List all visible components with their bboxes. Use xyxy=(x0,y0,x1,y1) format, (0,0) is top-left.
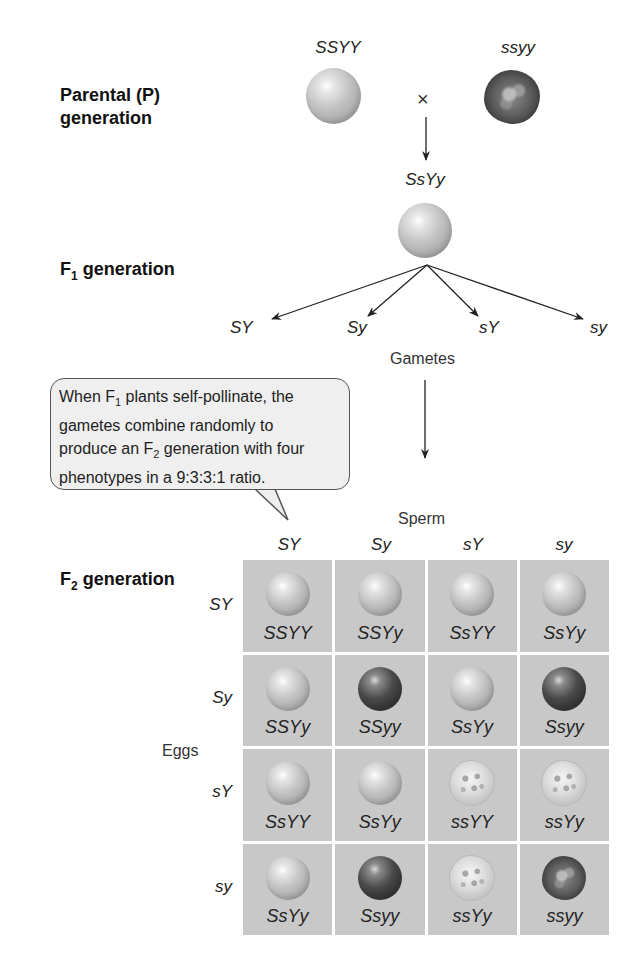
cell-genotype: SSYy xyxy=(243,717,332,738)
pea-green-wrinkled-icon xyxy=(542,856,586,900)
pea-yellow-round-icon xyxy=(266,856,310,900)
punnett-cell: SsYy xyxy=(335,749,424,841)
cell-genotype: ssyy xyxy=(520,906,609,927)
f2-generation-label: F2 generation xyxy=(60,568,175,598)
cell-genotype: SSYy xyxy=(335,623,424,644)
pea-yellow-round-icon xyxy=(266,667,310,711)
cell-genotype: SSYY xyxy=(243,623,332,644)
cell-genotype: SSyy xyxy=(335,717,424,738)
gametes-label: Gametes xyxy=(390,350,455,368)
column-header-sY: sY xyxy=(427,535,519,555)
callout-line3-post: generation with four xyxy=(159,440,304,457)
cell-genotype: ssYy xyxy=(520,812,609,833)
callout-line1-post: plants self-pollinate, the xyxy=(121,388,294,405)
pea-yellow-wrinkled-icon xyxy=(450,856,494,900)
callout-line2: gametes combine randomly to xyxy=(59,414,339,437)
punnett-cell: SsYY xyxy=(428,560,517,652)
column-header-SY: SY xyxy=(243,535,335,555)
cell-genotype: SsYy xyxy=(335,812,424,833)
pea-yellow-round-icon xyxy=(542,572,586,616)
row-header-SY: SY xyxy=(190,595,232,615)
sperm-label: Sperm xyxy=(398,510,445,528)
f2-label-sub: 2 xyxy=(71,579,78,593)
gamete-SY: SY xyxy=(230,318,253,338)
punnett-cell: ssYY xyxy=(428,749,517,841)
pea-green-round-icon xyxy=(542,667,586,711)
punnett-cell: SSYy xyxy=(243,655,332,747)
gamete-sY: sY xyxy=(479,318,499,338)
punnett-cell: Ssyy xyxy=(335,844,424,936)
pea-green-round-icon xyxy=(358,667,402,711)
callout-line1: When F1 plants self-pollinate, the xyxy=(59,385,339,414)
gamete-sy: sy xyxy=(590,318,607,338)
punnett-square: SSYY SSYy SsYY SsYy SSYy SSyy SsYy Ssyy … xyxy=(243,560,609,935)
f2-label-suffix: generation xyxy=(78,569,175,589)
column-header-Sy: Sy xyxy=(335,535,427,555)
cell-genotype: SsYY xyxy=(243,812,332,833)
cell-genotype: SsYY xyxy=(428,623,517,644)
punnett-cell: ssyy xyxy=(520,844,609,936)
punnett-cell: ssYy xyxy=(520,749,609,841)
punnett-cell: SsYy xyxy=(243,844,332,936)
callout-line3-pre: produce an F xyxy=(59,440,153,457)
gamete-Sy: Sy xyxy=(347,318,367,338)
pea-yellow-wrinkled-icon xyxy=(450,761,494,805)
pea-yellow-round-icon xyxy=(358,572,402,616)
cell-genotype: SsYy xyxy=(520,623,609,644)
cell-genotype: Ssyy xyxy=(335,906,424,927)
gamete-arrow-sY-icon xyxy=(427,265,478,316)
cell-genotype: ssYY xyxy=(428,812,517,833)
explanation-callout: When F1 plants self-pollinate, the gamet… xyxy=(50,378,350,490)
row-header-Sy: Sy xyxy=(190,688,232,708)
row-header-sY: sY xyxy=(190,782,232,802)
row-header-sy: sy xyxy=(190,877,232,897)
pea-yellow-round-icon xyxy=(266,572,310,616)
gamete-arrow-SY-icon xyxy=(272,265,427,319)
pea-yellow-round-icon xyxy=(266,761,310,805)
punnett-cell: Ssyy xyxy=(520,655,609,747)
gamete-arrow-sy-icon xyxy=(427,265,583,319)
punnett-cell: SSyy xyxy=(335,655,424,747)
cell-genotype: SsYy xyxy=(428,717,517,738)
gamete-arrow-Sy-icon xyxy=(368,265,427,316)
punnett-cell: SsYy xyxy=(520,560,609,652)
callout-line1-pre: When F xyxy=(59,388,115,405)
pea-yellow-round-icon xyxy=(358,761,402,805)
pea-yellow-round-icon xyxy=(450,667,494,711)
cell-genotype: Ssyy xyxy=(520,717,609,738)
pea-green-round-icon xyxy=(358,856,402,900)
pea-yellow-round-icon xyxy=(450,572,494,616)
callout-tail xyxy=(255,489,288,520)
f2-label-prefix: F xyxy=(60,569,71,589)
column-header-sy: sy xyxy=(519,535,609,555)
pea-yellow-wrinkled-icon xyxy=(542,761,586,805)
punnett-cell: SsYy xyxy=(428,655,517,747)
callout-line3: produce an F2 generation with four xyxy=(59,437,339,466)
punnett-cell: SsYY xyxy=(243,749,332,841)
punnett-cell: SSYy xyxy=(335,560,424,652)
cell-genotype: ssYy xyxy=(428,906,517,927)
punnett-cell: ssYy xyxy=(428,844,517,936)
eggs-label: Eggs xyxy=(162,742,198,760)
cell-genotype: SsYy xyxy=(243,906,332,927)
callout-line4: phenotypes in a 9:3:3:1 ratio. xyxy=(59,466,339,489)
punnett-cell: SSYY xyxy=(243,560,332,652)
